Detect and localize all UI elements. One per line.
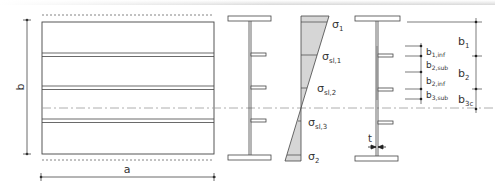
subpanel-labels: b1,inf b2,sub b2,inf b3,sub	[426, 47, 448, 101]
panel-labels: b1 b2 b3c	[458, 35, 473, 108]
label-sigma2: σ2	[308, 150, 319, 165]
label-b: b	[14, 83, 27, 90]
tension-area	[285, 108, 301, 161]
label-b2: b2	[458, 67, 469, 82]
plate-view	[23, 15, 216, 181]
stiffened-plate-diagram: b a σ1 σsl,1 σsl,2 σsl,3 σ2	[0, 0, 495, 192]
top-flange	[228, 16, 271, 21]
bottom-flange-2	[355, 156, 398, 161]
top-flange-2	[355, 16, 400, 21]
stiffener-section-1	[251, 53, 266, 56]
thickness-dimension	[368, 145, 386, 149]
section-with-widths	[355, 16, 400, 161]
stiffener-section-3	[251, 119, 266, 122]
label-sigma-sl3: σsl,3	[308, 116, 327, 131]
label-b2-inf: b2,inf	[426, 76, 446, 87]
subpanel-dimensions	[405, 43, 422, 104]
cross-section-view	[228, 16, 271, 160]
label-sigma-sl1: σsl,1	[322, 50, 341, 65]
stiffener-2	[42, 86, 214, 90]
label-a: a	[124, 163, 131, 176]
label-b2-sub: b2,sub	[426, 60, 448, 71]
label-b3c: b3c	[458, 93, 473, 108]
stiffener-1	[42, 53, 214, 57]
stiffener-section-2-3	[378, 121, 393, 124]
bottom-flange	[228, 155, 271, 160]
label-b1-inf: b1,inf	[426, 47, 446, 58]
label-t: t	[368, 133, 372, 144]
label-b1: b1	[458, 35, 469, 50]
stiffener-section-2	[251, 86, 266, 89]
label-b3-sub: b3,sub	[426, 90, 448, 101]
plate-outline	[42, 22, 214, 154]
label-sigma-sl2: σsl,2	[317, 82, 336, 97]
label-sigma1: σ1	[332, 18, 343, 33]
stiffener-section-2-2	[378, 88, 393, 91]
stiffener-3	[42, 119, 214, 123]
stiffener-section-2-1	[378, 54, 393, 57]
